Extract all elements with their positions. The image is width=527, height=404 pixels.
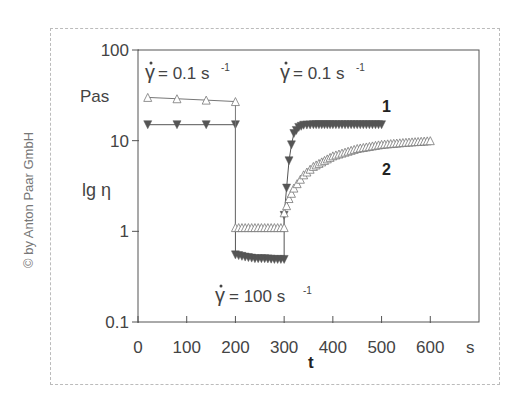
- series-1-label: 1: [382, 98, 391, 115]
- svg-text:γ: γ: [280, 61, 290, 83]
- y-tick-label: 100: [101, 41, 129, 60]
- x-tick-label: 400: [319, 338, 347, 357]
- x-tick-label: 0: [133, 338, 142, 357]
- annotation-recovery-shear-rate: γ = 0.1 s -1: [280, 61, 365, 83]
- y-tick-label: 10: [110, 132, 129, 151]
- x-tick-label: 100: [173, 338, 201, 357]
- svg-text:-1: -1: [356, 62, 365, 73]
- viscosity-chart: 01002003004005006000.1110100 Pas lg η t …: [0, 0, 527, 404]
- annotation-rest-shear-rate: γ = 0.1 s -1: [145, 61, 230, 83]
- y-tick-label: 0.1: [105, 313, 129, 332]
- y-axis-label: lg η: [82, 180, 111, 200]
- data-point-marker: [285, 157, 293, 165]
- x-tick-label: 300: [270, 338, 298, 357]
- x-axis-label: t: [308, 353, 314, 372]
- x-tick-label: 200: [221, 338, 249, 357]
- data-point-marker: [287, 141, 295, 149]
- x-tick-label: 600: [416, 338, 444, 357]
- x-tick-label: 500: [367, 338, 395, 357]
- annotation-high-shear-rate: γ = 100 s -1: [215, 284, 312, 306]
- x-unit-label: s: [466, 338, 475, 357]
- svg-text:= 0.1 s: = 0.1 s: [293, 64, 345, 83]
- svg-text:-1: -1: [303, 285, 312, 296]
- plot-area: [144, 93, 435, 263]
- svg-text:-1: -1: [221, 62, 230, 73]
- svg-text:γ: γ: [145, 61, 155, 83]
- y-unit-label: Pas: [80, 87, 109, 106]
- data-point-marker: [283, 184, 291, 192]
- series-2-label: 2: [382, 161, 391, 178]
- series-1: [144, 121, 386, 264]
- y-tick-label: 1: [120, 222, 129, 241]
- svg-text:γ: γ: [215, 284, 225, 306]
- svg-text:= 0.1 s: = 0.1 s: [158, 64, 210, 83]
- svg-text:= 100 s: = 100 s: [229, 287, 285, 306]
